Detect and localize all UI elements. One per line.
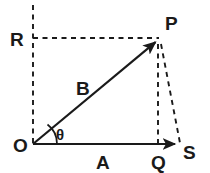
vector-label-b: B (76, 78, 90, 99)
point-label-o: O (13, 135, 28, 156)
p-to-s-dashed-line (161, 44, 180, 143)
vector-diagram-canvas: R P O Q S B A θ (0, 0, 210, 173)
vector-b-line (33, 42, 156, 144)
point-label-s: S (183, 142, 196, 163)
angle-label-theta: θ (56, 126, 64, 143)
point-label-q: Q (151, 152, 166, 173)
point-label-p: P (165, 13, 178, 34)
point-label-r: R (10, 29, 24, 50)
vector-label-a: A (96, 152, 110, 173)
vector-diagram-figure: R P O Q S B A θ (0, 0, 210, 173)
